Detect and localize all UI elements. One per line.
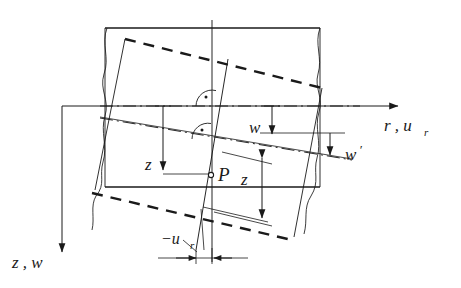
label-w-prime-mark: ′ [359, 142, 362, 157]
label-z-left: z [144, 155, 152, 174]
lower-fiber-helper-lines [201, 207, 268, 250]
label-w-prime: w [345, 145, 357, 164]
point-p-marker [208, 172, 213, 177]
right-angle-dot-bottom [201, 129, 204, 132]
right-angle-marker-bottom [192, 123, 211, 139]
deformed-left-edge [95, 39, 125, 190]
deformed-midsurface-group [100, 117, 352, 160]
right-angle-dot-top [205, 96, 208, 99]
label-u-r-subscript: r [190, 239, 195, 251]
dimension-z-left [155, 106, 213, 174]
break-line-right [304, 28, 320, 234]
axial-axis-label: z , w [11, 253, 43, 272]
deformed-top-edge [125, 39, 322, 88]
dimension-w-prime [260, 133, 345, 155]
label-point-p: P [217, 164, 230, 185]
radial-axis-label: r , u [384, 116, 412, 135]
lower-helper-line-a [203, 207, 268, 222]
diagram-canvas: r , u r z , w w w ′ z z P −u r [0, 0, 461, 288]
right-angle-marker-top [196, 90, 216, 106]
radial-axis-label-subscript: r [424, 126, 429, 138]
deformed-midsurface-centerline [100, 118, 352, 160]
label-z-right: z [240, 170, 248, 189]
label-w: w [249, 118, 261, 137]
plate-kinematics-diagram: r , u r z , w w w ′ z z P −u r [0, 0, 461, 288]
dimension-z-right-upper-ext [222, 152, 272, 164]
dimension-w [264, 106, 280, 134]
deformed-right-edge [294, 88, 322, 237]
lower-helper-line-b [201, 209, 204, 250]
undeformed-cross-section [105, 28, 320, 187]
label-u-r: −u [161, 230, 180, 247]
deformed-cross-section [92, 39, 322, 240]
break-curve-right [304, 28, 320, 234]
